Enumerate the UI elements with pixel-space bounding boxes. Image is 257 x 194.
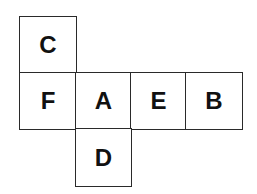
face-label-b: B [205, 89, 222, 113]
face-label-e: E [150, 89, 166, 113]
face-e: E [130, 72, 187, 130]
face-f: F [19, 72, 77, 130]
face-label-d: D [95, 146, 112, 170]
cube-net-diagram: C F A E B D [0, 0, 257, 194]
face-a: A [75, 72, 132, 130]
face-b: B [185, 72, 243, 130]
face-label-a: A [95, 89, 112, 113]
face-label-c: C [39, 33, 56, 57]
face-c: C [19, 16, 77, 74]
face-d: D [75, 128, 132, 187]
face-label-f: F [41, 89, 56, 113]
